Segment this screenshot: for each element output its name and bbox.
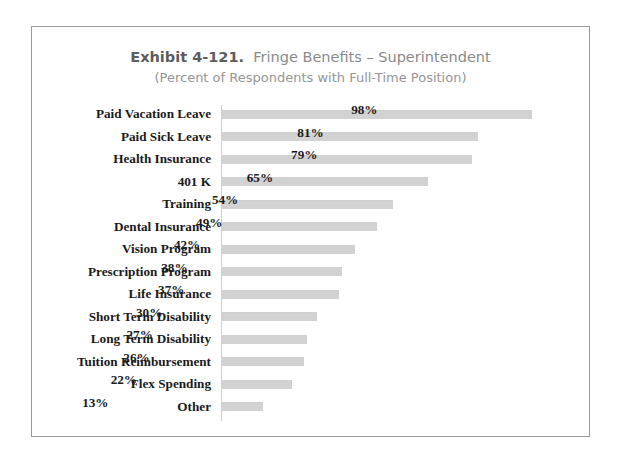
- bar-fill: [222, 245, 355, 254]
- bar-value-label: 26%: [114, 349, 149, 367]
- category-label: Paid Sick Leave: [0, 128, 211, 146]
- category-label: Training: [0, 195, 211, 213]
- bar-fill: [222, 357, 304, 366]
- bar-row: Flex Spending22%: [32, 375, 589, 398]
- bar-fill: [222, 290, 339, 299]
- bar-row: Other13%: [32, 398, 589, 421]
- bar: [222, 200, 393, 209]
- bar: [222, 380, 292, 389]
- bar: [222, 222, 377, 231]
- bar: [222, 312, 317, 321]
- chart-subtitle: (Percent of Respondents with Full-Time P…: [32, 68, 589, 88]
- bar-fill: [222, 222, 377, 231]
- bar-fill: [222, 155, 472, 164]
- bar-fill: [222, 335, 307, 344]
- category-label: Paid Vacation Leave: [0, 105, 211, 123]
- bar-fill: [222, 267, 342, 276]
- chart-frame: Exhibit 4-121. Fringe Benefits – Superin…: [31, 26, 590, 437]
- category-label: Dental Insurance: [0, 218, 211, 236]
- category-label: Short Term Disability: [0, 308, 211, 326]
- bar-fill: [222, 132, 478, 141]
- bar: [222, 357, 304, 366]
- bar: [222, 132, 478, 141]
- chart-title: Exhibit 4-121. Fringe Benefits – Superin…: [32, 47, 589, 68]
- chart-title-exhibit: Exhibit 4-121.: [130, 49, 244, 65]
- bar-row: Short Term Disability30%: [32, 308, 589, 331]
- bar: [222, 290, 339, 299]
- bar-fill: [222, 312, 317, 321]
- bar: [222, 402, 263, 411]
- chart-title-main: Fringe Benefits – Superintendent: [253, 49, 491, 65]
- category-label: 401 K: [0, 173, 211, 191]
- bar: [222, 335, 307, 344]
- bar-row: Prescription Program38%: [32, 263, 589, 286]
- bar-value-label: 13%: [73, 394, 108, 412]
- category-label: Tuition Reimbursement: [0, 353, 211, 371]
- chart-title-block: Exhibit 4-121. Fringe Benefits – Superin…: [32, 47, 589, 88]
- bar-value-label: 65%: [238, 169, 273, 187]
- bar-value-label: 37%: [149, 281, 184, 299]
- bar: [222, 155, 472, 164]
- category-label: Health Insurance: [0, 150, 211, 168]
- bar-row: Training54%: [32, 195, 589, 218]
- bar-row: Vision Program42%: [32, 240, 589, 263]
- plot-area: Paid Vacation Leave98%Paid Sick Leave81%…: [32, 100, 589, 430]
- bar-value-label: 49%: [187, 214, 222, 232]
- bar-row: Dental Insurance49%: [32, 218, 589, 241]
- bar-row: Life Insurance37%: [32, 285, 589, 308]
- bar-row: Health Insurance79%: [32, 150, 589, 173]
- bar-fill: [222, 200, 393, 209]
- bar-value-label: 79%: [282, 146, 317, 164]
- bar-value-label: 30%: [127, 304, 162, 322]
- bar: [222, 267, 342, 276]
- bar-value-label: 98%: [342, 101, 377, 119]
- bar-value-label: 27%: [117, 326, 152, 344]
- bar-fill: [222, 402, 263, 411]
- bar-fill: [222, 380, 292, 389]
- bar-row: 401 K65%: [32, 173, 589, 196]
- bar-value-label: 22%: [102, 371, 137, 389]
- category-label: Long Term Disability: [0, 330, 211, 348]
- bar-value-label: 42%: [165, 236, 200, 254]
- bar: [222, 245, 355, 254]
- bar-value-label: 54%: [203, 191, 238, 209]
- bar-value-label: 38%: [152, 259, 187, 277]
- bar-value-label: 81%: [288, 124, 323, 142]
